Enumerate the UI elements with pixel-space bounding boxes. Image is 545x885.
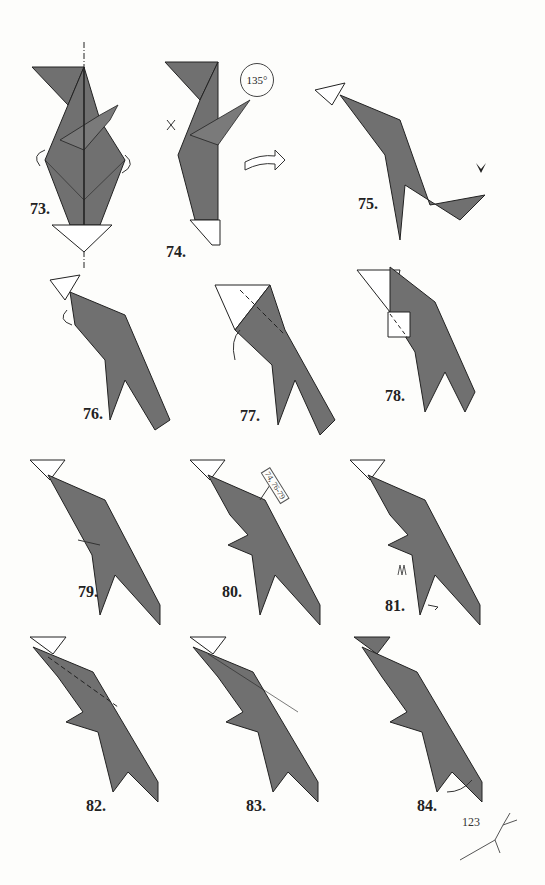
step-76-diagram bbox=[45, 270, 205, 440]
turn-over-arrow-icon bbox=[245, 150, 285, 180]
step-79-diagram bbox=[30, 455, 190, 625]
step-number: 81. bbox=[385, 597, 405, 615]
step-number: 82. bbox=[86, 797, 106, 815]
step-82: 82. bbox=[28, 632, 188, 812]
step-84: 84. bbox=[352, 632, 522, 812]
step-84-diagram bbox=[352, 632, 522, 812]
step-73-diagram bbox=[0, 0, 140, 270]
step-78-diagram bbox=[355, 262, 535, 442]
step-83-diagram bbox=[188, 632, 348, 812]
step-80: 74, 76-79 80. bbox=[190, 455, 350, 625]
step-number: 78. bbox=[385, 387, 405, 405]
fold-arrow-icon bbox=[233, 330, 240, 360]
step-number: 73. bbox=[30, 200, 50, 218]
step-number: 75. bbox=[358, 195, 378, 213]
step-79: 79. bbox=[30, 455, 190, 625]
step-77: 77. bbox=[210, 270, 370, 440]
step-number: 77. bbox=[240, 407, 260, 425]
step-82-diagram bbox=[28, 632, 188, 812]
finished-model-icon bbox=[455, 805, 525, 865]
hand-icon bbox=[398, 565, 406, 575]
step-75: 75. bbox=[310, 75, 540, 235]
step-number: 84. bbox=[417, 797, 437, 815]
step-77-diagram bbox=[210, 270, 370, 440]
x-mark-icon bbox=[167, 120, 175, 130]
step-number: 79. bbox=[78, 583, 98, 601]
step-75-diagram bbox=[310, 75, 540, 235]
step-number: 76. bbox=[83, 405, 103, 423]
step-81: 81. bbox=[350, 455, 530, 625]
rotate-icon: 135° bbox=[240, 63, 274, 97]
step-76: 76. bbox=[45, 270, 205, 440]
push-arrow-icon bbox=[476, 163, 486, 173]
step-number: 83. bbox=[246, 797, 266, 815]
step-74: 74. 135° bbox=[160, 55, 300, 255]
step-83: 83. bbox=[188, 632, 348, 812]
step-number: 74. bbox=[166, 243, 186, 261]
step-73: 73. bbox=[0, 0, 140, 270]
step-78: 78. bbox=[355, 262, 535, 442]
step-81-diagram bbox=[350, 455, 530, 625]
step-number: 80. bbox=[222, 583, 242, 601]
